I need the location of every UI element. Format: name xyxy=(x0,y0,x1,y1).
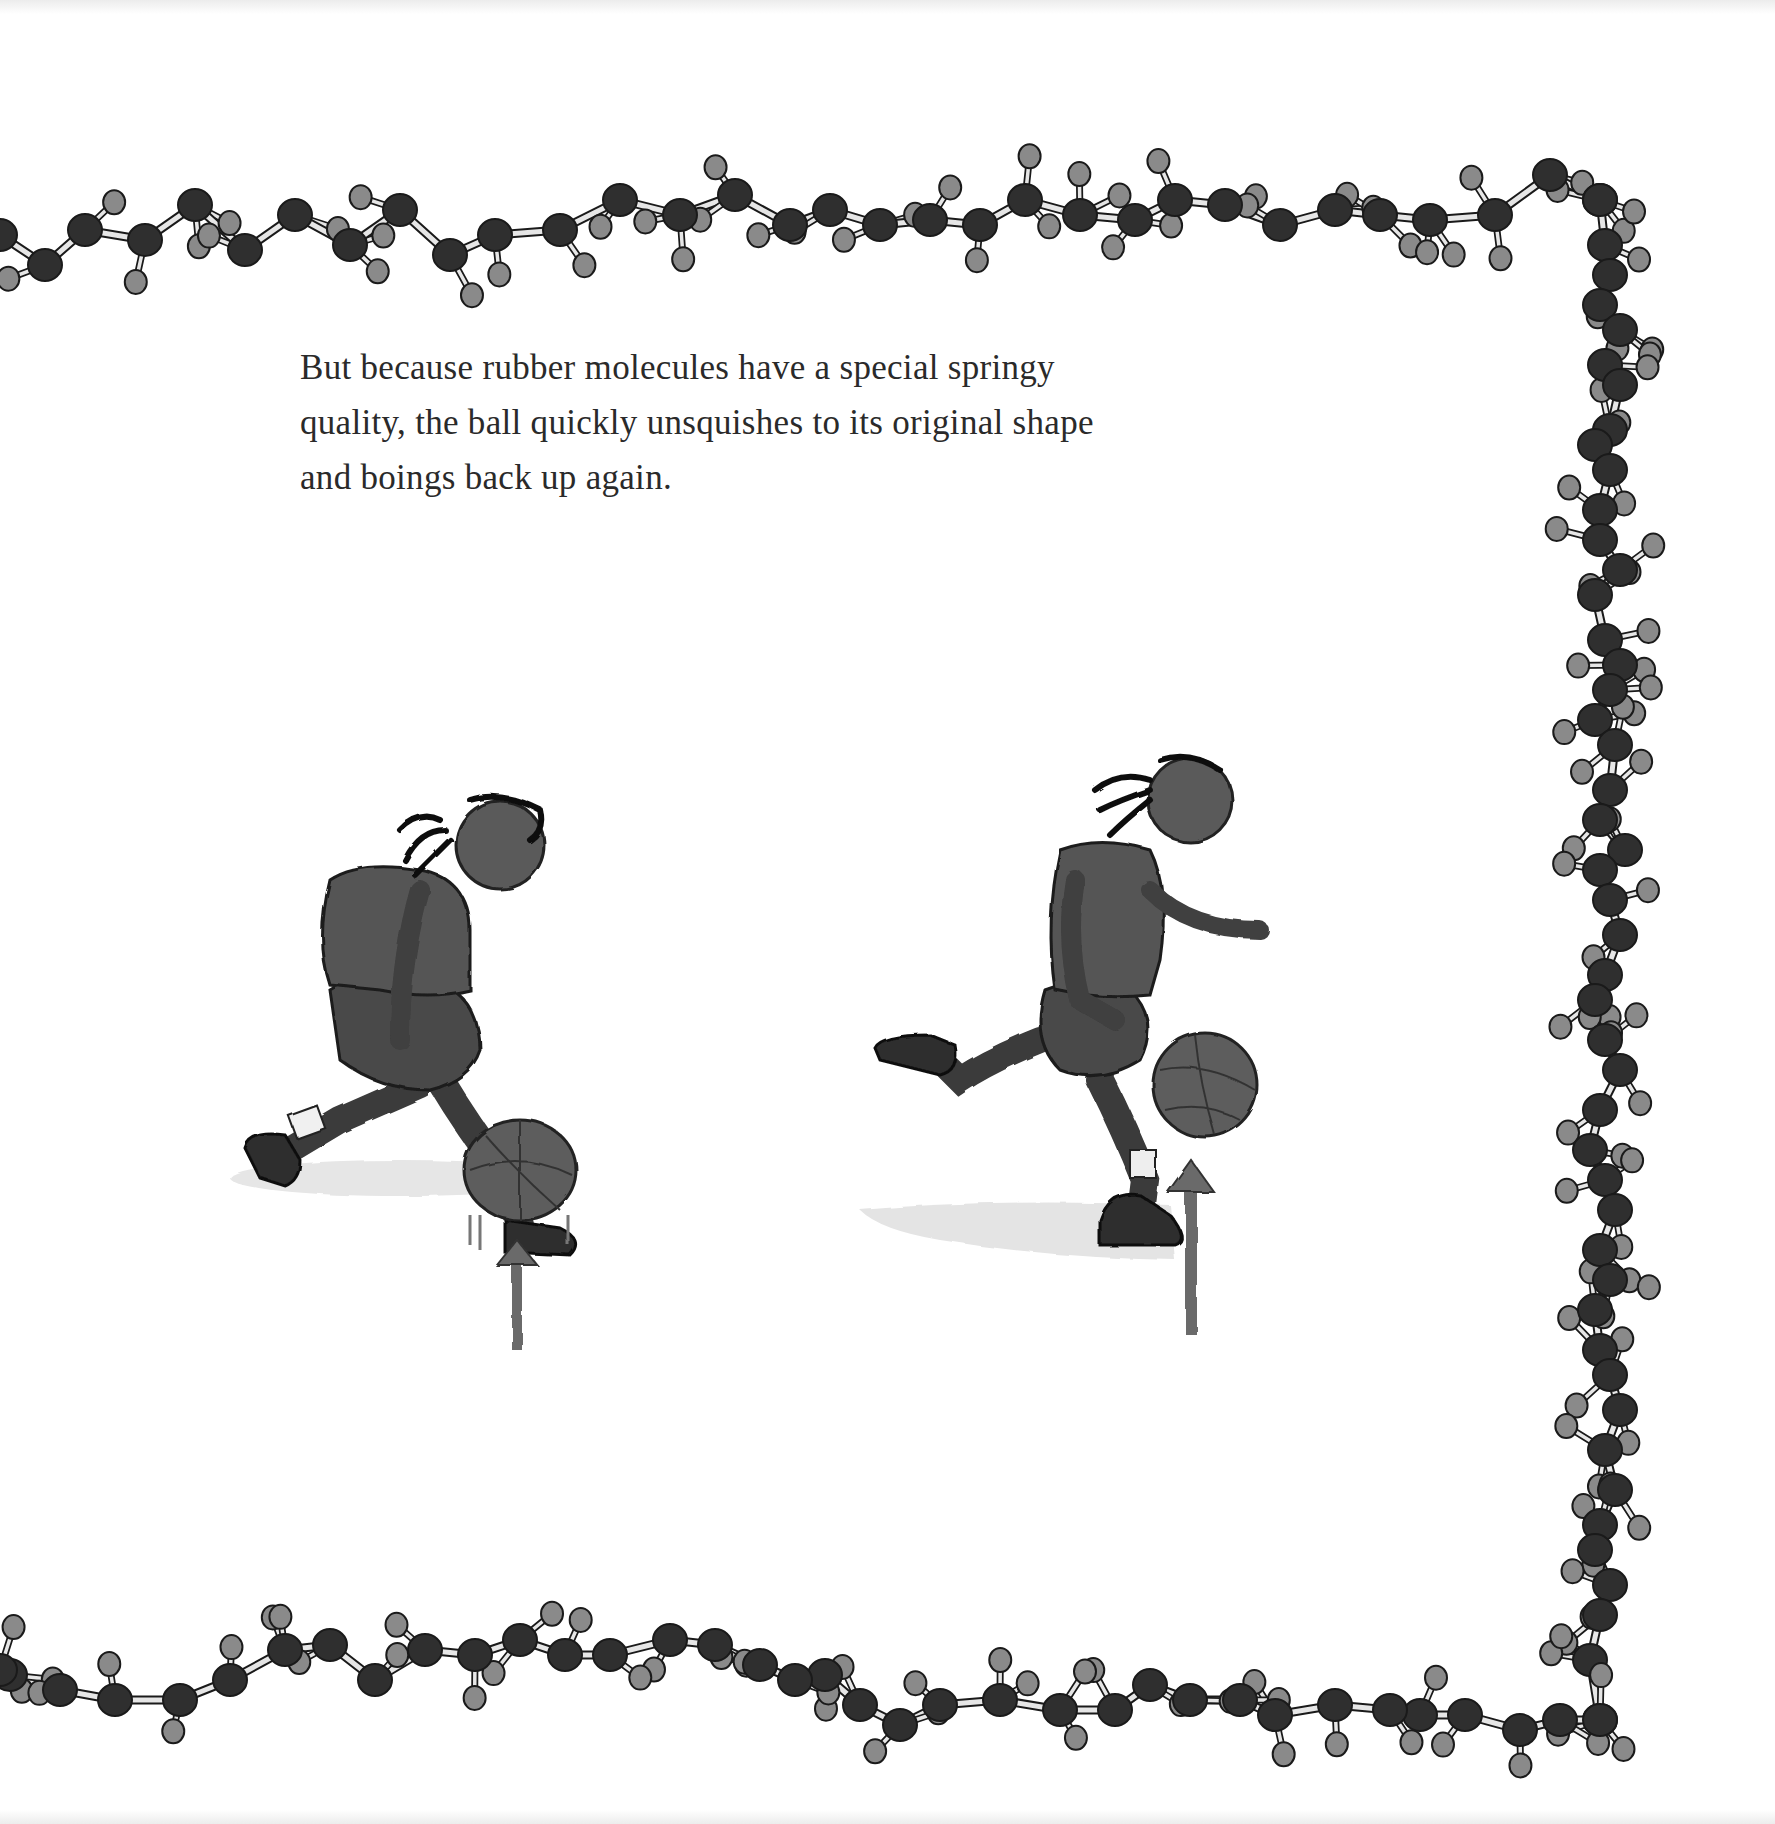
girl-running-right xyxy=(860,757,1260,1335)
shoe-front-right xyxy=(1100,1194,1181,1245)
arrow-up-icon xyxy=(497,1240,537,1350)
shoe-back-right xyxy=(875,1035,956,1075)
head-left xyxy=(456,801,544,889)
basketball-illustration xyxy=(0,0,1775,1824)
arrow-up-icon xyxy=(1168,1160,1214,1335)
basketball-round xyxy=(1153,1033,1257,1137)
book-page: But because rubber molecules have a spec… xyxy=(0,0,1775,1824)
girl-dribbling-left xyxy=(230,797,576,1350)
